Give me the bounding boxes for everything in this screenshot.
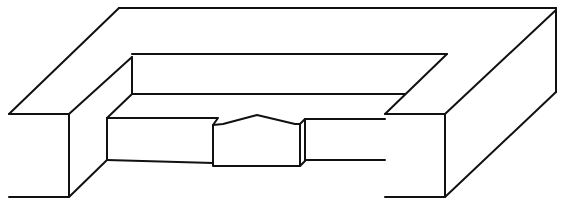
right-top-diagonal <box>445 10 556 114</box>
inner-right-diagonal <box>385 54 447 114</box>
center-block <box>213 115 300 166</box>
bar-left-face <box>107 118 218 163</box>
left-block-side-bottom <box>69 160 107 197</box>
right-bottom-diagonal <box>445 92 556 197</box>
left-front-face <box>9 114 69 197</box>
frame-diagram <box>0 0 562 204</box>
left-top-diagonal <box>9 8 119 114</box>
floor-left-diagonal <box>107 94 132 118</box>
frame-drawing <box>0 0 562 204</box>
left-block-inner-top <box>69 57 132 114</box>
right-front-face <box>385 114 445 197</box>
